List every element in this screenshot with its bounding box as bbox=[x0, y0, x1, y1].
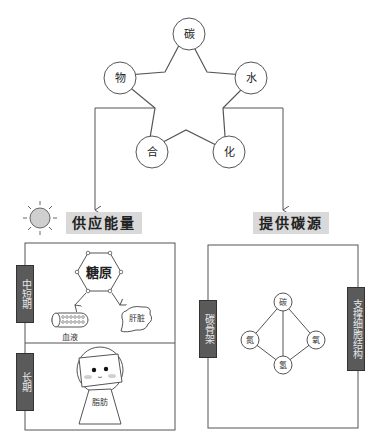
atom-left: 氮 bbox=[241, 331, 259, 349]
star-node-left: 物 bbox=[104, 62, 136, 94]
caption-supply-energy: 供应能量 bbox=[66, 212, 142, 234]
svg-text:氧: 氧 bbox=[312, 335, 320, 345]
svg-text:肝脏: 肝脏 bbox=[129, 313, 145, 323]
svg-text:合: 合 bbox=[147, 145, 158, 159]
label-carbon-skeleton: 碳骨架 bbox=[199, 300, 217, 358]
label-support-cell-structure: 支撑细胞结构 bbox=[347, 287, 365, 371]
star-node-bottom-right: 化 bbox=[213, 136, 245, 168]
svg-text:氮: 氮 bbox=[246, 335, 254, 345]
atom-right: 氧 bbox=[307, 331, 325, 349]
sun-icon bbox=[23, 201, 57, 235]
star-node-top: 碳 bbox=[173, 18, 205, 50]
svg-text:碳: 碳 bbox=[279, 297, 287, 307]
atom-bottom: 氢 bbox=[274, 356, 292, 374]
svg-text:糖原: 糖原 bbox=[86, 265, 112, 280]
fat-figure: 脂肪 bbox=[77, 347, 123, 424]
star-node-bottom-left: 合 bbox=[136, 136, 168, 168]
caption-provide-carbon: 提供碳源 bbox=[253, 212, 329, 234]
svg-text:氢: 氢 bbox=[279, 360, 287, 370]
svg-text:碳: 碳 bbox=[184, 27, 195, 41]
label-long-term: 长期 bbox=[16, 353, 34, 411]
svg-text:脂肪: 脂肪 bbox=[92, 397, 108, 407]
svg-text:水: 水 bbox=[246, 72, 257, 85]
star-node-right: 水 bbox=[235, 62, 267, 94]
atom-top: 碳 bbox=[274, 293, 292, 311]
svg-text:物: 物 bbox=[115, 71, 126, 85]
label-short-medium-term: 中短期 bbox=[16, 265, 34, 323]
svg-text:血液: 血液 bbox=[62, 332, 78, 342]
svg-text:化: 化 bbox=[224, 145, 235, 159]
